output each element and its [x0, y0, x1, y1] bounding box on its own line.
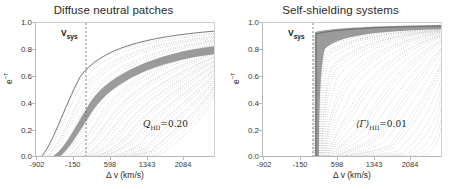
y-axis-label-right: e−τ — [229, 73, 241, 84]
annotation-symbol-right: ⟨Γ⟩ — [356, 119, 369, 129]
xtick-4: 2084 — [175, 160, 192, 169]
ytick-r-0-8: 0.8 — [235, 45, 259, 54]
dotted-sightlines-right — [313, 25, 442, 157]
ytick-0-4: 0.4 — [8, 99, 32, 108]
plot-area-right — [262, 22, 442, 157]
vsys-label-right: Vsys — [288, 28, 305, 40]
ytick-0-2: 0.2 — [8, 126, 32, 135]
y-axis-label-left: e−τ — [2, 73, 14, 84]
ytick-1-0: 1.0 — [8, 18, 32, 27]
y-axis-label-base-left: e — [4, 79, 14, 84]
ytick-0-0: 0.0 — [8, 152, 32, 161]
panel-diffuse-neutral-patches: Diffuse neutral patches — [0, 0, 227, 189]
annotation-right: ⟨Γ⟩HII=0.01 — [356, 119, 407, 131]
annotation-operator-left: = — [160, 119, 168, 129]
xtick-r-0: -902 — [256, 160, 271, 169]
plot-area-left — [35, 22, 215, 157]
y-axis-label-exp-right: −τ — [229, 73, 236, 79]
xtick-r-4: 2084 — [402, 160, 419, 169]
xtick-r-1: -150 — [292, 160, 307, 169]
plot-svg-left — [36, 23, 215, 157]
median-curve-right — [316, 26, 442, 157]
y-axis-label-exp-left: −τ — [2, 73, 9, 79]
ytick-r-0-2: 0.2 — [235, 126, 259, 135]
vsys-label-left: Vsys — [61, 28, 78, 40]
annotation-left: QHII=0.20 — [143, 119, 188, 131]
panel-title-left: Diffuse neutral patches — [0, 4, 227, 16]
y-axis-label-base-right: e — [231, 79, 241, 84]
annotation-value-left: 0.20 — [168, 119, 188, 129]
confidence-band-left — [49, 46, 215, 157]
ytick-r-0-4: 0.4 — [235, 99, 259, 108]
x-axis-label-right: Δ v (km/s) — [262, 170, 442, 180]
annotation-subscript-left: HII — [150, 124, 160, 131]
xtick-r-2: 598 — [331, 160, 344, 169]
xtick-3: 1343 — [139, 160, 156, 169]
xtick-2: 598 — [104, 160, 117, 169]
ytick-r-1-0: 1.0 — [235, 18, 259, 27]
vsys-label-sub-right: sys — [294, 33, 305, 40]
panel-title-right: Self-shielding systems — [227, 4, 454, 16]
xtick-0: -902 — [29, 160, 44, 169]
figure-root: Diffuse neutral patches — [0, 0, 454, 189]
vsys-label-sub-left: sys — [67, 33, 78, 40]
panel-self-shielding-systems: Self-shielding systems — [227, 0, 454, 189]
plot-svg-right — [263, 23, 442, 157]
ytick-0-8: 0.8 — [8, 45, 32, 54]
ytick-r-0-0: 0.0 — [235, 152, 259, 161]
x-axis-label-left: Δ v (km/s) — [35, 170, 215, 180]
xtick-1: -150 — [65, 160, 80, 169]
xtick-r-3: 1343 — [366, 160, 383, 169]
annotation-value-right: 0.01 — [387, 119, 407, 129]
annotation-operator-right: = — [379, 119, 387, 129]
annotation-subscript-right: HII — [369, 124, 379, 131]
